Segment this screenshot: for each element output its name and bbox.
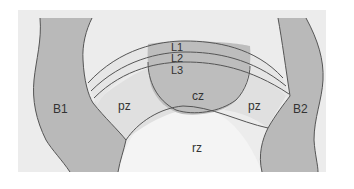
- label-l3: L3: [171, 64, 183, 76]
- label-pz-right: pz: [248, 99, 261, 113]
- label-rz: rz: [192, 141, 202, 155]
- label-b1: B1: [53, 102, 68, 116]
- label-l2: L2: [171, 52, 183, 64]
- label-b2: B2: [293, 102, 308, 116]
- label-cz: cz: [192, 89, 204, 103]
- meristem-zone-diagram: B1 B2 L1 L2 L3 cz pz pz rz: [0, 0, 354, 189]
- label-pz-left: pz: [118, 99, 131, 113]
